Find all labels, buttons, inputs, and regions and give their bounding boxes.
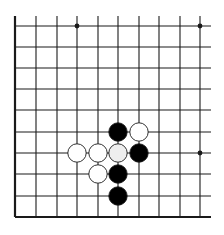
- go-board: [0, 0, 224, 235]
- black-stone: [130, 144, 148, 162]
- white-stone: [130, 123, 148, 141]
- star-point-icon: [75, 24, 80, 29]
- grid-lines: [15, 16, 211, 217]
- stones: [68, 123, 148, 205]
- white-stone: [109, 144, 127, 162]
- black-stone: [109, 187, 127, 205]
- black-stone: [109, 123, 127, 141]
- black-stone: [109, 165, 127, 183]
- white-stone: [89, 144, 107, 162]
- star-point-icon: [198, 151, 203, 156]
- white-stone: [68, 144, 86, 162]
- white-stone: [89, 165, 107, 183]
- star-point-icon: [198, 24, 203, 29]
